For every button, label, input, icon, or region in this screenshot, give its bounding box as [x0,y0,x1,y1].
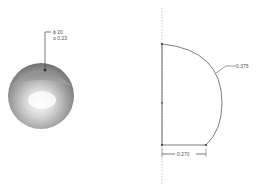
arc-radius-dimension: 0.375 [236,63,249,69]
sphere-highlight [28,91,56,109]
vertex-top [161,43,163,45]
base-width-dimension: 0.270 [177,151,190,157]
vertex-base-end [205,144,207,146]
diagram-canvas [0,0,260,192]
sphere-view [8,32,74,129]
vertex-bottom [161,144,163,146]
leader-point [44,69,47,72]
profile-sketch [161,8,236,185]
profile-arc [162,44,222,145]
vertex-mid [161,102,163,104]
sphere-annotation-line2: α 0.23 [53,35,67,41]
radius-dimension-leader [216,66,236,73]
